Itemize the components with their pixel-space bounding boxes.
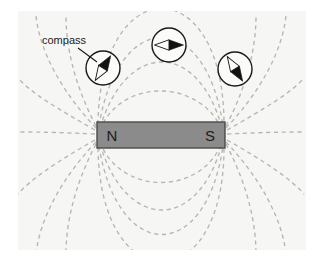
compass-top[interactable] [152, 28, 186, 62]
field-line [98, 148, 224, 262]
field-line [36, 142, 96, 254]
field-line [18, 140, 95, 194]
south-pole-label: S [205, 127, 215, 144]
field-line [227, 132, 304, 134]
compass-left[interactable] [86, 51, 120, 85]
field-line [227, 140, 304, 194]
callout-label: compass [42, 34, 87, 46]
compass-right[interactable] [218, 52, 252, 86]
field-line [66, 144, 96, 254]
bar-magnet: N S [97, 122, 225, 148]
magnetic-field-diagram: N S compass [0, 0, 322, 270]
north-pole-label: N [107, 127, 118, 144]
field-line [18, 132, 95, 134]
field-line [99, 146, 223, 235]
field-line [226, 142, 286, 254]
field-line-layer: N S compass [0, 0, 322, 270]
field-line [226, 144, 256, 254]
compasses-group [86, 28, 252, 86]
field-line [100, 144, 222, 210]
field-line [18, 78, 95, 130]
